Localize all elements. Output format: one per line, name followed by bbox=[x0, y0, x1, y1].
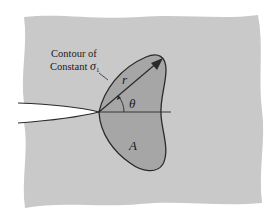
contour-label-text: Constant bbox=[50, 61, 90, 72]
area-label: A bbox=[128, 138, 137, 153]
sigma-subscript: 1 bbox=[96, 66, 100, 74]
contour-label-line1: Contour of bbox=[51, 48, 97, 59]
angle-label: θ bbox=[129, 96, 136, 111]
contour-label-line2: Constant σ1 bbox=[50, 59, 100, 74]
fracture-contour-diagram: Contour of Constant σ1 r θ A bbox=[0, 0, 280, 223]
